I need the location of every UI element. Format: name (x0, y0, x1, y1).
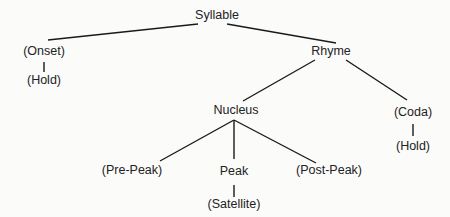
node-satellite: (Satellite) (208, 198, 261, 211)
node-onset-hold: (Hold) (27, 74, 61, 87)
node-pre-peak: (Pre-Peak) (102, 164, 162, 177)
node-onset: (Onset) (23, 45, 65, 58)
edge-syllable-onset (48, 24, 198, 40)
syllable-tree-diagram: Syllable (Onset) (Hold) Rhyme Nucleus (C… (0, 0, 450, 217)
node-peak: Peak (220, 165, 249, 178)
node-rhyme: Rhyme (311, 45, 351, 58)
edge-rhyme-nucleus (243, 60, 315, 101)
node-syllable: Syllable (195, 9, 239, 22)
node-coda-hold: (Hold) (396, 140, 430, 153)
node-nucleus: Nucleus (213, 104, 258, 117)
node-coda: (Coda) (394, 106, 432, 119)
edge-rhyme-coda (346, 60, 407, 100)
edge-syllable-rhyme (227, 24, 336, 43)
node-post-peak: (Post-Peak) (296, 164, 362, 177)
edge-nucleus-postpeak (234, 120, 316, 163)
edge-nucleus-prepeak (160, 120, 234, 161)
